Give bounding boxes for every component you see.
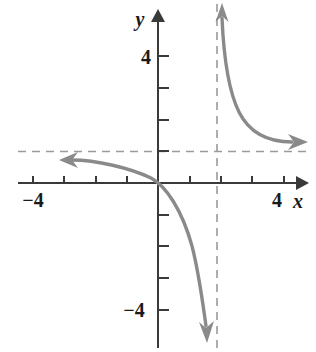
curve-path-upper-right [222, 18, 292, 142]
x-axis-label: x [292, 190, 303, 212]
graph-figure: y x 4 −4 −4 4 [0, 0, 316, 352]
y-axis-label: y [134, 8, 145, 31]
y-tick-label-4: 4 [141, 46, 151, 68]
x-axis-arrowhead-icon [296, 176, 309, 190]
y-axis-arrowhead-icon [151, 9, 165, 22]
x-tick-label--4: −4 [22, 189, 43, 211]
y-tick-label--4: −4 [123, 299, 144, 321]
curve-branch-upper-right [216, 3, 309, 150]
rational-function-graph: y x 4 −4 −4 4 [0, 0, 316, 352]
x-tick-label-4: 4 [272, 189, 282, 211]
